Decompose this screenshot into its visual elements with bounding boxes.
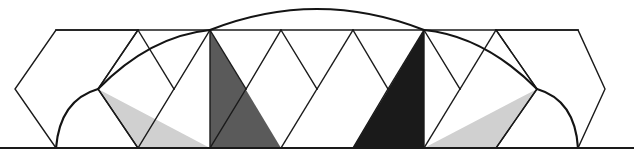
figure-background — [0, 0, 634, 158]
figure-svg — [0, 0, 634, 158]
geometric-figure-canvas — [0, 0, 634, 158]
